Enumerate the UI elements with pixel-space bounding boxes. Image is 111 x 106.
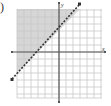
x-axis-label: x — [101, 46, 105, 52]
y-axis-arrow-down-icon — [58, 101, 60, 103]
y-axis-label: y — [60, 2, 64, 8]
line-arrow-upper-right-icon — [78, 3, 81, 6]
y-axis-arrow-up-icon — [58, 2, 60, 4]
x-axis-arrow-left-icon — [11, 51, 13, 53]
line-arrow-lower-left-icon — [11, 78, 14, 81]
coordinate-plane: x y — [0, 0, 111, 106]
